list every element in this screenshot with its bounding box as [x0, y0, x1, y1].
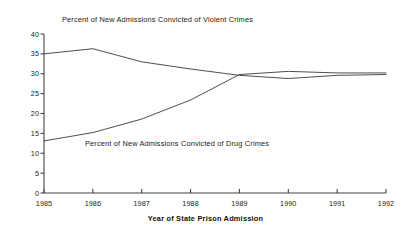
- axes-group: [41, 34, 387, 193]
- x-tick-label: 1992: [366, 199, 406, 208]
- y-tick-label: 10: [21, 149, 39, 158]
- series-label-drug-crimes: Percent of New Admissions Convicted of D…: [85, 139, 269, 148]
- chart-container: 0510152025303540 19851986198719881989199…: [0, 0, 411, 238]
- y-tick-label: 30: [21, 69, 39, 78]
- y-tick-label: 20: [21, 109, 39, 118]
- x-tick-label: 1989: [219, 199, 259, 208]
- x-tick-label: 1991: [317, 199, 357, 208]
- y-tick-label: 25: [21, 89, 39, 98]
- y-tick-label: 0: [21, 189, 39, 198]
- series-group: [44, 49, 386, 141]
- series-line-drug-crimes: [44, 71, 386, 141]
- y-tick-label: 5: [21, 169, 39, 178]
- x-tick-label: 1985: [24, 199, 64, 208]
- y-tick-label: 15: [21, 129, 39, 138]
- x-tick-label: 1986: [73, 199, 113, 208]
- x-tick-label: 1987: [122, 199, 162, 208]
- series-label-violent-crimes: Percent of New Admissions Convicted of V…: [62, 15, 253, 24]
- x-tick-label: 1990: [268, 199, 308, 208]
- y-tick-label: 35: [21, 49, 39, 58]
- x-tick-label: 1988: [171, 199, 211, 208]
- y-tick-label: 40: [21, 30, 39, 39]
- x-axis-title: Year of State Prison Admission: [0, 214, 411, 223]
- series-line-violent-crimes: [44, 49, 386, 79]
